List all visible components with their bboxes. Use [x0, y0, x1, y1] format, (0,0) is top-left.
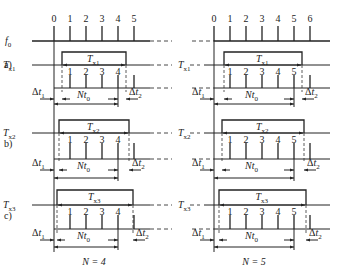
gate-arrow-right	[297, 63, 301, 66]
gate-arrow-left	[60, 131, 64, 134]
delta-t2-arrow-right	[126, 97, 130, 100]
count-label: 1	[68, 66, 73, 77]
f0-tick-label: 6	[308, 13, 313, 24]
row-gate-label: Tx2	[178, 127, 191, 141]
nt0-arrow-right	[114, 176, 118, 179]
nt0-arrow-right	[114, 102, 118, 105]
delta-t2-arrow-right	[302, 97, 306, 100]
right-panel: 0123456Tx1Tx112345Δt1Δt2Nt0Tx2Tx212345Δt…	[178, 13, 330, 267]
count-label: 2	[84, 66, 89, 77]
row-3: Tx3Tx3c)1234Δt1Δt2Nt0	[3, 190, 172, 250]
delta-t2-arrow-right	[306, 238, 310, 241]
delta-t1-label: Δt1	[32, 86, 45, 100]
count-label: 1	[68, 134, 73, 145]
gate-arrow-left	[223, 131, 227, 134]
gate-arrow-left	[58, 203, 62, 206]
delta-t2-arrow	[290, 238, 294, 241]
delta-t1-label: Δt1	[32, 157, 45, 171]
gate-arrow-right	[121, 63, 125, 66]
row-gate-label: Tx3	[178, 199, 191, 213]
gate-label: Tx2	[256, 121, 269, 135]
nt0-arrow-left	[214, 245, 218, 248]
nt0-arrow-left	[54, 102, 58, 105]
delta-t1-arrow-right	[219, 238, 223, 241]
f0-tick-label: 4	[116, 13, 121, 24]
delta-t1-label: Δt1	[192, 86, 205, 100]
delta-t1-arrow	[210, 168, 214, 171]
f0-tick-label: 2	[244, 13, 249, 24]
delta-t2-arrow-right	[133, 238, 137, 241]
count-label: 5	[292, 206, 297, 217]
f0-tick-label: 0	[52, 13, 57, 24]
count-label: 3	[260, 66, 265, 77]
f0-tick-label: 3	[100, 13, 105, 24]
gate-arrow-right	[301, 203, 305, 206]
delta-t1-arrow	[50, 97, 54, 100]
nt0-arrow-left	[54, 176, 58, 179]
row-tag: b)	[4, 138, 12, 150]
gate-label: Tx2	[87, 121, 100, 135]
count-label: 4	[116, 206, 121, 217]
count-label: 2	[84, 134, 89, 145]
delta-t2-arrow	[114, 97, 118, 100]
nt0-arrow-right	[290, 102, 294, 105]
panel-caption: N = 5	[241, 256, 265, 267]
counting-error-timing-diagram: f0012345Tx1Tx1a)1234Δt1Δt2Nt0Tx2Tx2b)123…	[0, 0, 338, 277]
nt0-arrow-right	[114, 245, 118, 248]
count-label: 3	[260, 134, 265, 145]
panel-caption: N = 4	[81, 256, 105, 267]
count-label: 2	[244, 206, 249, 217]
nt0-arrow-right	[290, 245, 294, 248]
delta-t1-label: Δt1	[192, 157, 205, 171]
delta-t2-arrow-right	[129, 168, 133, 171]
count-label: 1	[228, 134, 233, 145]
left-panel: 012345Tx1Tx1a)1234Δt1Δt2Nt0Tx2Tx2b)1234Δ…	[3, 13, 172, 267]
delta-t1-arrow-right	[57, 238, 61, 241]
count-label: 1	[68, 206, 73, 217]
gate-label: Tx1	[256, 53, 269, 67]
gate-arrow-left	[220, 203, 224, 206]
f0-tick-label: 5	[132, 13, 137, 24]
f0-tick-label: 5	[292, 13, 297, 24]
delta-t2-arrow	[114, 238, 118, 241]
count-label: 2	[244, 134, 249, 145]
delta-t1-label: Δt1	[192, 227, 205, 241]
gate-label: Tx3	[256, 191, 269, 205]
row-1: Tx1Tx1a)1234Δt1Δt2Nt0	[3, 52, 172, 107]
count-label: 5	[292, 66, 297, 77]
f0-tick-label: 0	[212, 13, 217, 24]
f0-tick-label: 2	[84, 13, 89, 24]
delta-t2-arrow-right	[304, 168, 308, 171]
row-2: Tx2Tx2b)1234Δt1Δt2Nt0	[3, 120, 172, 181]
f0-tick-label: 1	[228, 13, 233, 24]
gate-arrow-left	[63, 63, 67, 66]
count-label: 3	[100, 134, 105, 145]
count-label: 2	[244, 66, 249, 77]
delta-t2-arrow	[290, 97, 294, 100]
f0-label: f0	[5, 35, 12, 49]
gate-arrow-right	[299, 131, 303, 134]
count-label: 1	[228, 206, 233, 217]
count-label: 4	[276, 66, 281, 77]
nt0-arrow-right	[290, 176, 294, 179]
f0-tick-label: 3	[260, 13, 265, 24]
row-3: Tx3Tx312345Δt1Δt2Nt0	[178, 190, 330, 250]
row-tag: a)	[4, 59, 12, 71]
row-gate-label: Tx1	[178, 59, 191, 73]
f0-tick-label: 1	[68, 13, 73, 24]
gate-arrow-right	[124, 131, 128, 134]
count-label: 3	[100, 206, 105, 217]
delta-t1-arrow-right	[222, 168, 226, 171]
delta-t1-arrow-right	[59, 168, 63, 171]
count-label: 4	[276, 134, 281, 145]
gate-label: Tx1	[87, 53, 100, 67]
count-label: 5	[292, 134, 297, 145]
nt0-arrow-left	[54, 245, 58, 248]
delta-t1-arrow	[50, 168, 54, 171]
delta-t1-label: Δt1	[32, 227, 45, 241]
delta-t2-arrow	[114, 168, 118, 171]
nt0-arrow-left	[214, 102, 218, 105]
count-label: 4	[116, 66, 121, 77]
nt0-arrow-left	[214, 176, 218, 179]
count-label: 2	[84, 206, 89, 217]
